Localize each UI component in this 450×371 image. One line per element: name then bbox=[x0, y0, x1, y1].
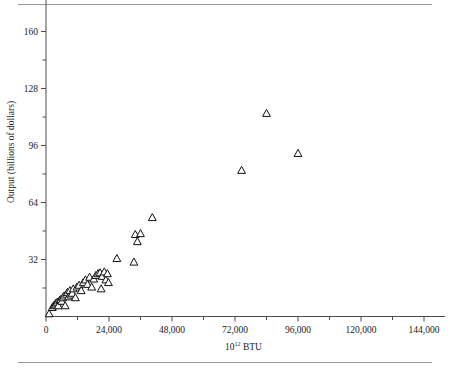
axis-titles-layer: 1012 BTUOutput (billions of dollars) bbox=[6, 101, 262, 352]
data-points-layer bbox=[45, 109, 302, 316]
x-axis-title-unit: BTU bbox=[241, 342, 263, 352]
y-tick-label: 96 bbox=[29, 141, 39, 151]
scatter-point-marker bbox=[137, 230, 145, 237]
scatter-point-marker bbox=[263, 109, 271, 116]
x-tick-label: 120,000 bbox=[346, 325, 377, 335]
x-axis-title: 1012 BTU bbox=[225, 341, 262, 351]
scatter-point-marker bbox=[133, 238, 141, 245]
x-tick-label: 144,000 bbox=[409, 325, 440, 335]
scatter-point-marker bbox=[148, 214, 156, 221]
y-tick-label: 32 bbox=[29, 255, 39, 265]
x-tick-label: 48,000 bbox=[159, 325, 185, 335]
y-axis: 326496128160 bbox=[24, 0, 46, 317]
scatter-point-marker bbox=[238, 166, 246, 173]
x-axis-title-base: 10 bbox=[225, 342, 235, 352]
x-axis: 024,00048,00072,00096,000120,000144,000 bbox=[44, 317, 445, 335]
y-axis-title: Output (billions of dollars) bbox=[6, 101, 17, 203]
scatter-point-marker bbox=[113, 255, 121, 262]
scatter-plot-figure: 326496128160 024,00048,00072,00096,00012… bbox=[0, 0, 450, 371]
plot-canvas: 326496128160 024,00048,00072,00096,00012… bbox=[0, 0, 450, 371]
x-tick-label: 24,000 bbox=[96, 325, 122, 335]
x-tick-label: 72,000 bbox=[222, 325, 248, 335]
y-tick-label: 160 bbox=[24, 27, 39, 37]
y-tick-label: 128 bbox=[24, 84, 39, 94]
y-tick-label: 64 bbox=[29, 198, 39, 208]
scatter-point-marker bbox=[130, 258, 138, 265]
x-tick-label: 96,000 bbox=[285, 325, 311, 335]
scatter-point-marker bbox=[294, 149, 302, 156]
x-tick-label: 0 bbox=[44, 325, 49, 335]
scatter-point-marker bbox=[97, 285, 105, 292]
